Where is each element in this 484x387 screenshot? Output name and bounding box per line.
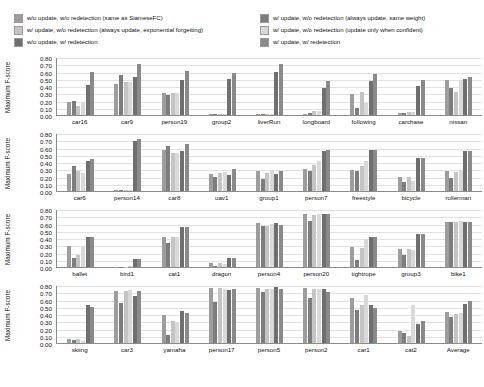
bar[interactable]: [175, 153, 179, 191]
bar[interactable]: [185, 313, 189, 343]
bar[interactable]: [175, 323, 179, 343]
bar[interactable]: [72, 258, 76, 267]
bar[interactable]: [213, 114, 217, 115]
bar[interactable]: [407, 177, 411, 191]
bar[interactable]: [265, 114, 269, 115]
bar[interactable]: [421, 80, 425, 115]
bar[interactable]: [416, 158, 420, 191]
bar[interactable]: [256, 114, 260, 115]
bar[interactable]: [369, 237, 373, 267]
bar[interactable]: [270, 114, 274, 115]
bar[interactable]: [445, 171, 449, 191]
bar[interactable]: [209, 174, 213, 191]
bar[interactable]: [355, 171, 359, 191]
bar[interactable]: [449, 222, 453, 267]
bar[interactable]: [364, 161, 368, 191]
bar[interactable]: [86, 161, 90, 191]
bar[interactable]: [90, 237, 94, 267]
bar[interactable]: [171, 93, 175, 115]
bar[interactable]: [312, 289, 316, 343]
bar[interactable]: [411, 112, 415, 115]
bar[interactable]: [223, 264, 227, 267]
bar[interactable]: [81, 173, 85, 191]
bar[interactable]: [270, 170, 274, 191]
bar[interactable]: [218, 114, 222, 115]
bar[interactable]: [162, 93, 166, 115]
bar[interactable]: [322, 289, 326, 343]
bar[interactable]: [303, 288, 307, 343]
bar[interactable]: [67, 246, 71, 267]
bar[interactable]: [128, 190, 132, 191]
bar[interactable]: [137, 139, 141, 191]
bar[interactable]: [137, 291, 141, 343]
bar[interactable]: [421, 158, 425, 191]
bar[interactable]: [227, 258, 231, 267]
bar[interactable]: [119, 75, 123, 115]
bar[interactable]: [402, 255, 406, 267]
bar[interactable]: [133, 77, 137, 115]
bar[interactable]: [180, 80, 184, 115]
bar[interactable]: [355, 260, 359, 267]
bar[interactable]: [256, 223, 260, 267]
bar[interactable]: [454, 314, 458, 343]
bar[interactable]: [398, 331, 402, 343]
bar[interactable]: [128, 290, 132, 343]
bar[interactable]: [124, 82, 128, 115]
bar[interactable]: [279, 225, 283, 267]
bar[interactable]: [213, 302, 217, 343]
bar[interactable]: [326, 150, 330, 191]
bar[interactable]: [119, 190, 123, 191]
bar[interactable]: [322, 214, 326, 267]
bar[interactable]: [265, 173, 269, 191]
bar[interactable]: [364, 103, 368, 115]
bar[interactable]: [360, 305, 364, 343]
bar[interactable]: [445, 80, 449, 115]
bar[interactable]: [76, 171, 80, 191]
bar[interactable]: [373, 308, 377, 343]
bar[interactable]: [223, 114, 227, 115]
bar[interactable]: [90, 307, 94, 343]
bar[interactable]: [416, 324, 420, 343]
bar[interactable]: [274, 287, 278, 343]
bar[interactable]: [364, 295, 368, 343]
bar[interactable]: [171, 153, 175, 191]
bar[interactable]: [407, 336, 411, 343]
bar[interactable]: [308, 171, 312, 191]
bar[interactable]: [449, 178, 453, 191]
bar[interactable]: [86, 237, 90, 267]
bar[interactable]: [218, 173, 222, 191]
bar[interactable]: [213, 177, 217, 192]
bar[interactable]: [373, 237, 377, 267]
bar[interactable]: [303, 214, 307, 267]
bar[interactable]: [124, 190, 128, 191]
bar[interactable]: [402, 182, 406, 191]
bar[interactable]: [463, 151, 467, 191]
bar[interactable]: [232, 169, 236, 191]
bar[interactable]: [350, 298, 354, 343]
bar[interactable]: [119, 303, 123, 343]
bar[interactable]: [86, 305, 90, 343]
bar[interactable]: [90, 72, 94, 116]
bar[interactable]: [128, 82, 132, 115]
bar[interactable]: [137, 64, 141, 115]
bar[interactable]: [398, 113, 402, 115]
bar[interactable]: [185, 71, 189, 115]
bar[interactable]: [175, 237, 179, 267]
legend-item[interactable]: w/o update, w/o redetection (same as Sia…: [14, 12, 260, 24]
bar[interactable]: [72, 166, 76, 191]
bar[interactable]: [166, 335, 170, 343]
bar[interactable]: [227, 175, 231, 191]
bar[interactable]: [274, 72, 278, 116]
bar[interactable]: [364, 239, 368, 267]
bar[interactable]: [218, 288, 222, 343]
bar[interactable]: [459, 80, 463, 115]
bar[interactable]: [171, 321, 175, 343]
bar[interactable]: [270, 289, 274, 343]
bar[interactable]: [449, 317, 453, 343]
bar[interactable]: [76, 339, 80, 343]
legend-item[interactable]: w/ update, w/o redetection (update only …: [260, 24, 474, 36]
bar[interactable]: [185, 227, 189, 267]
bar[interactable]: [326, 81, 330, 115]
bar[interactable]: [312, 111, 316, 115]
bar[interactable]: [270, 224, 274, 268]
